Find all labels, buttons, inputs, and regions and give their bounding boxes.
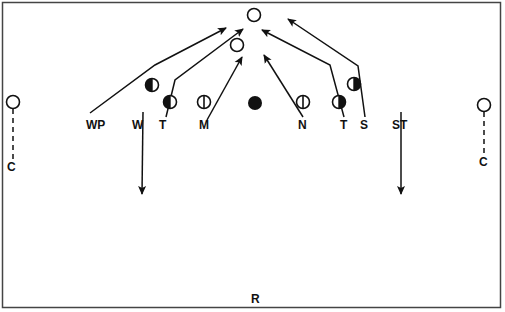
left-tackle-half-filled-icon <box>164 96 177 109</box>
right-corner-circle-icon <box>478 99 491 112</box>
middle-right-barred-circle-icon <box>297 96 310 109</box>
left-corner-circle-icon <box>7 96 20 109</box>
middle-left-barred-circle-icon <box>198 96 211 109</box>
label-wp: WP <box>86 118 105 132</box>
right-tackle-half-filled-icon <box>333 96 346 109</box>
label-m: M <box>199 118 209 132</box>
label-c-left: C <box>7 160 16 174</box>
label-n: N <box>298 118 307 132</box>
left-end-half-filled-icon <box>146 79 159 92</box>
label-t-right: T <box>340 118 348 132</box>
right-end-half-filled-icon <box>348 78 361 91</box>
label-r: R <box>251 292 260 306</box>
label-c-right: C <box>479 155 488 169</box>
top-target-circle-icon <box>248 9 261 22</box>
play-diagram: WP W T M N T S ST C C R <box>0 0 505 312</box>
field-border <box>3 3 501 308</box>
label-t-left: T <box>159 118 167 132</box>
upper-target-circle-icon <box>231 39 244 52</box>
label-s: S <box>360 118 368 132</box>
label-w: W <box>132 118 144 132</box>
center-ball-filled-icon <box>248 96 262 110</box>
label-st: ST <box>392 118 408 132</box>
